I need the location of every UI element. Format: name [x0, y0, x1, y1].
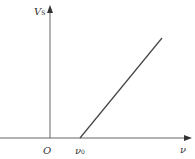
y-axis-label: VS — [34, 7, 45, 17]
x-axis-arrow-icon — [184, 135, 192, 141]
graph-canvas — [0, 0, 195, 159]
threshold-label: ν0 — [75, 146, 85, 156]
x-axis-label: ν — [180, 145, 186, 155]
vs-line — [80, 38, 162, 138]
origin-label: O — [43, 146, 51, 156]
y-axis-arrow-icon — [47, 5, 53, 13]
